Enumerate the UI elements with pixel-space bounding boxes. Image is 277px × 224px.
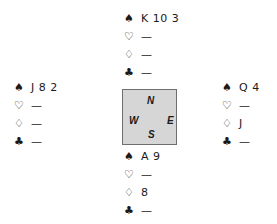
south-clubs-cards: — <box>141 202 153 220</box>
club-icon: ♣ <box>122 64 136 82</box>
east-spades-row: ♠Q 4 <box>220 79 260 97</box>
west-clubs-row: ♣— <box>12 133 43 151</box>
diamond-icon: ♢ <box>220 115 234 133</box>
spade-icon: ♠ <box>122 10 136 28</box>
compass-box: N W E S <box>122 89 177 145</box>
east-diamonds-cards: J <box>239 115 243 133</box>
spade-icon: ♠ <box>220 79 234 97</box>
east-hearts-row: ♡— <box>220 97 251 115</box>
diamond-icon: ♢ <box>122 184 136 202</box>
diamond-icon: ♢ <box>122 46 136 64</box>
compass-north-label: N <box>147 96 154 106</box>
east-hearts-cards: — <box>239 97 251 115</box>
south-clubs-row: ♣— <box>122 202 153 220</box>
west-clubs-cards: — <box>31 133 43 151</box>
north-hearts-row: ♡— <box>122 28 153 46</box>
south-diamonds-cards: 8 <box>141 184 149 202</box>
north-clubs-row: ♣— <box>122 64 153 82</box>
west-hearts-cards: — <box>31 97 43 115</box>
diamond-icon: ♢ <box>12 115 26 133</box>
east-clubs-cards: — <box>239 133 251 151</box>
north-spades-cards: K 10 3 <box>141 10 179 28</box>
north-clubs-cards: — <box>141 64 153 82</box>
spade-icon: ♠ <box>122 148 136 166</box>
south-spades-row: ♠A 9 <box>122 148 161 166</box>
spade-icon: ♠ <box>12 79 26 97</box>
west-diamonds-cards: — <box>31 115 43 133</box>
club-icon: ♣ <box>220 133 234 151</box>
club-icon: ♣ <box>122 202 136 220</box>
south-hearts-row: ♡— <box>122 166 153 184</box>
compass-east-label: E <box>167 116 174 126</box>
east-clubs-row: ♣— <box>220 133 251 151</box>
south-diamonds-row: ♢8 <box>122 184 149 202</box>
west-spades-row: ♠J 8 2 <box>12 79 58 97</box>
south-hearts-cards: — <box>141 166 153 184</box>
east-diamonds-row: ♢J <box>220 115 243 133</box>
compass-west-label: W <box>129 116 138 126</box>
north-diamonds-row: ♢— <box>122 46 153 64</box>
east-spades-cards: Q 4 <box>239 79 260 97</box>
north-hearts-cards: — <box>141 28 153 46</box>
heart-icon: ♡ <box>122 28 136 46</box>
heart-icon: ♡ <box>220 97 234 115</box>
west-diamonds-row: ♢— <box>12 115 43 133</box>
compass-south-label: S <box>148 130 155 140</box>
north-spades-row: ♠K 10 3 <box>122 10 179 28</box>
club-icon: ♣ <box>12 133 26 151</box>
heart-icon: ♡ <box>12 97 26 115</box>
south-spades-cards: A 9 <box>141 148 161 166</box>
heart-icon: ♡ <box>122 166 136 184</box>
north-diamonds-cards: — <box>141 46 153 64</box>
west-hearts-row: ♡— <box>12 97 43 115</box>
west-spades-cards: J 8 2 <box>31 79 58 97</box>
